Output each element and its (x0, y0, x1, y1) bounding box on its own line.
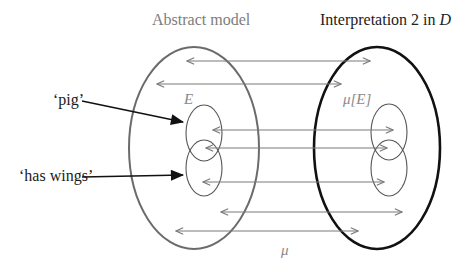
set-e-label: E (184, 92, 193, 107)
abstract-pig-set-ellipse (186, 105, 222, 161)
abstract-model-title: Abstract model (152, 12, 250, 28)
term-label-has-wings: ‘has wings’ (19, 168, 93, 184)
mu-mapping-label: μ (281, 243, 289, 258)
interpretation-title-text: Interpretation 2 in (320, 11, 440, 28)
mapping-arrows (157, 61, 402, 231)
mu-e-label: μ[E] (343, 92, 371, 107)
term-arrow-has-wings (82, 175, 183, 177)
domain-symbol: D (440, 11, 452, 28)
diagram-canvas (0, 0, 459, 269)
term-label-pig: ‘pig’ (53, 92, 84, 108)
interpretation-pig-image-ellipse (371, 104, 407, 160)
interpretation-title: Interpretation 2 in D (320, 12, 451, 28)
